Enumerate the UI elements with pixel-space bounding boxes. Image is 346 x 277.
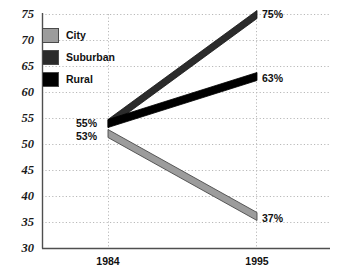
label-suburban-1995: 75%: [262, 9, 283, 20]
y-tick-40: 40: [8, 190, 34, 203]
legend-label-city: City: [66, 30, 86, 41]
legend-swatch-suburban-icon: [42, 50, 59, 65]
label-suburban-1984: 55%: [76, 118, 97, 129]
y-tick-70: 70: [8, 34, 34, 47]
legend-item-city[interactable]: City: [42, 24, 134, 46]
x-tick-1984: 1984: [78, 256, 138, 267]
legend-item-suburban[interactable]: Suburban: [42, 46, 134, 68]
y-tick-50: 50: [8, 138, 34, 151]
y-tick-30: 30: [8, 242, 34, 255]
x-tick-1995: 1995: [227, 256, 287, 267]
label-rural-1995: 63%: [262, 73, 283, 84]
y-tick-45: 45: [8, 164, 34, 177]
legend-item-rural[interactable]: Rural: [42, 68, 134, 90]
legend-label-rural: Rural: [66, 74, 93, 85]
legend-swatch-rural-icon: [42, 72, 59, 87]
label-city-1995: 37%: [262, 213, 283, 224]
series-line-city: [108, 130, 257, 221]
chart-legend: City Suburban Rural: [42, 24, 134, 90]
slope-chart: 75 70 65 60 55 50 45 40 35 30 1984 1995 …: [0, 0, 346, 277]
legend-swatch-city-icon: [42, 28, 59, 43]
legend-label-suburban: Suburban: [66, 52, 115, 63]
label-city-1984: 53%: [76, 131, 97, 142]
y-tick-65: 65: [8, 60, 34, 73]
y-tick-60: 60: [8, 86, 34, 99]
y-tick-35: 35: [8, 216, 34, 229]
y-tick-55: 55: [8, 112, 34, 125]
y-tick-75: 75: [8, 8, 34, 21]
